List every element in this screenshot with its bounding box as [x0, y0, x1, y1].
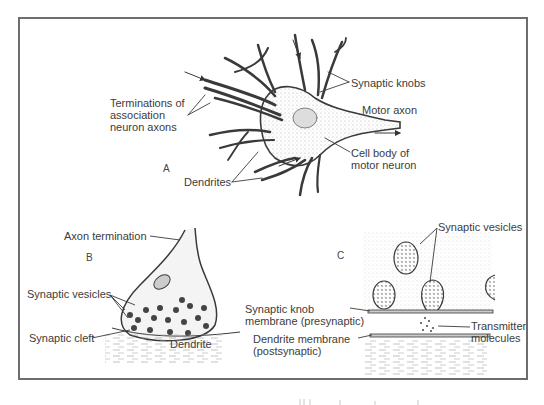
label-dendrite-membrane: Dendrite membrane (postsynaptic)	[253, 333, 350, 357]
caption-fragment	[300, 399, 418, 405]
label-knob-membrane: Synaptic knob membrane (presynaptic)	[245, 303, 364, 327]
label-synaptic-knobs: Synaptic knobs	[351, 77, 426, 89]
panel-letter-a: A	[163, 163, 170, 174]
label-synaptic-vesicles-c: Synaptic vesicles	[438, 221, 522, 233]
panel-letter-c: C	[337, 250, 344, 261]
label-cell-body: Cell body of motor neuron	[351, 147, 416, 171]
label-synaptic-vesicles-b: Synaptic vesicles	[27, 288, 111, 300]
label-dendrite: Dendrite	[170, 338, 212, 350]
label-motor-axon: Motor axon	[362, 104, 417, 116]
label-transmitter-molecules: Transmitter molecules	[471, 320, 526, 344]
panel-c-synapse-detail	[350, 228, 495, 375]
panel-b-axon-termination	[92, 228, 240, 364]
transmitter-dots	[420, 317, 434, 332]
label-terminations: Terminations of association neuron axons	[110, 97, 185, 133]
label-dendrites: Dendrites	[184, 176, 231, 188]
label-synaptic-cleft: Synaptic cleft	[29, 332, 94, 344]
panel-letter-b: B	[86, 252, 93, 263]
label-axon-termination: Axon termination	[64, 230, 147, 242]
